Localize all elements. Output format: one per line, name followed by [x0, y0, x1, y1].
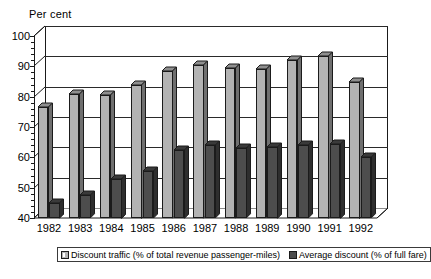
gridline [45, 87, 388, 88]
bar-1987-series1 [193, 65, 204, 218]
bar-3d-shading [298, 141, 313, 218]
bar-1985-series2 [143, 171, 154, 218]
y-tick-label: 80 [4, 92, 30, 102]
bar-3d-shading [49, 199, 64, 218]
bar-3d-shading [143, 167, 158, 218]
bar-1982-series1 [38, 107, 49, 218]
x-tick-label-1992: 1992 [343, 222, 379, 234]
y-tick-minor [31, 103, 34, 104]
y-tick-minor [31, 151, 34, 152]
y-tick-label: 100 [4, 31, 30, 41]
y-tick-minor [31, 182, 34, 183]
bar-3d-shading [174, 146, 189, 218]
bar-3d-shading [236, 144, 251, 218]
bar-1991-series2 [330, 144, 341, 218]
bar-1992-series2 [361, 157, 372, 218]
bar-1989-series1 [256, 69, 267, 218]
y-tick-label: 70 [4, 122, 30, 132]
y-axis-title: Per cent [29, 8, 72, 20]
tick-depth-connector [34, 87, 45, 97]
y-tick-minor [31, 169, 34, 170]
dark-gray-swatch-icon [289, 251, 297, 259]
y-tick-minor [31, 72, 34, 73]
y-tick-minor [31, 54, 34, 55]
y-tick-minor [31, 206, 34, 207]
bar-3d-shading [111, 175, 126, 218]
y-tick-minor [31, 78, 34, 79]
bar-3d-shading [361, 153, 376, 218]
legend-label-average-discount: Average discount (% of full fare) [299, 250, 427, 260]
gridline [45, 56, 388, 57]
bar-1982-series2 [49, 203, 60, 218]
gridline [45, 117, 388, 118]
bar-1990-series2 [298, 145, 309, 218]
y-tick-minor [31, 85, 34, 86]
y-tick-minor [31, 163, 34, 164]
tick-depth-connector [34, 56, 45, 66]
plot-area [34, 26, 388, 218]
bar-1984-series2 [111, 179, 122, 218]
y-tick-label: 90 [4, 61, 30, 71]
y-tick-minor [31, 91, 34, 92]
y-tick-minor [31, 48, 34, 49]
bar-1987-series2 [205, 145, 216, 218]
y-tick-label: 60 [4, 152, 30, 162]
bar-1986-series2 [174, 150, 185, 218]
y-tick-minor [31, 42, 34, 43]
bar-1989-series2 [267, 147, 278, 218]
tick-depth-connector [34, 26, 45, 36]
y-tick-minor [31, 194, 34, 195]
y-tick-minor [31, 176, 34, 177]
gridline [45, 26, 388, 27]
x-axis-tick-labels: 1982198319841985198619871988198919901991… [0, 222, 402, 238]
y-tick-minor [31, 60, 34, 61]
bar-1986-series1 [162, 71, 173, 218]
bar-1983-series2 [80, 195, 91, 218]
legend-item-discount-traffic: Discount traffic (% of total revenue pas… [61, 248, 280, 261]
legend-label-discount-traffic: Discount traffic (% of total revenue pas… [71, 250, 280, 260]
bar-1990-series1 [287, 60, 298, 218]
bar-3d-shading [330, 140, 345, 218]
y-tick-minor [31, 145, 34, 146]
bar-1985-series1 [131, 85, 142, 218]
bar-1984-series1 [100, 95, 111, 218]
chart-legend: Discount traffic (% of total revenue pas… [57, 247, 431, 262]
bar-1992-series1 [349, 82, 360, 219]
bar-3d-shading [80, 191, 95, 218]
y-tick-minor [31, 115, 34, 116]
y-tick-minor [31, 200, 34, 201]
light-gray-swatch-icon [61, 251, 69, 259]
y-tick-minor [31, 109, 34, 110]
bar-3d-shading [205, 141, 220, 218]
bar-1983-series1 [69, 94, 80, 218]
bar-1988-series1 [225, 68, 236, 218]
y-tick-minor [31, 121, 34, 122]
y-tick-minor [31, 133, 34, 134]
bar-1991-series1 [318, 56, 329, 218]
bar-3d-shading [267, 143, 282, 218]
y-tick-minor [31, 139, 34, 140]
y-tick-label: 50 [4, 183, 30, 193]
y-tick-minor [31, 212, 34, 213]
legend-item-average-discount: Average discount (% of full fare) [289, 248, 427, 261]
bar-1988-series2 [236, 148, 247, 218]
